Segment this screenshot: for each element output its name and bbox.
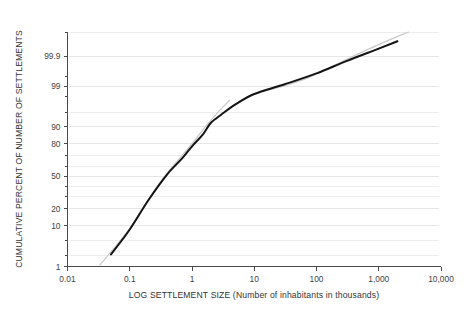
y-tick-label: 10 [51, 221, 61, 231]
probability-plot-chart: 99.99990805020101 0.010.11101001,00010,0… [0, 0, 474, 314]
y-axis-title: CUMULATIVE PERCENT OF NUMBER OF SETTLEME… [14, 30, 24, 268]
y-tick-label: 90 [51, 122, 61, 132]
y-tick-label: 99 [51, 81, 61, 91]
y-tick-label: 99.9 [44, 51, 61, 61]
x-tick-label: 10,000 [428, 274, 454, 284]
y-tick-label: 50 [51, 171, 61, 181]
y-tick-label: 80 [51, 139, 61, 149]
x-axis-title: LOG SETTLEMENT SIZE (Number of inhabitan… [129, 290, 379, 300]
x-tick-label: 0.1 [124, 274, 136, 284]
y-tick-label: 1 [56, 262, 61, 272]
x-tick-label: 10 [250, 274, 260, 284]
x-tick-label: 100 [310, 274, 324, 284]
x-tick-label: 1 [190, 274, 195, 284]
x-tick-label: 0.01 [59, 274, 76, 284]
y-tick-label: 20 [51, 204, 61, 214]
x-tick-label: 1,000 [368, 274, 389, 284]
chart-canvas: 99.99990805020101 0.010.11101001,00010,0… [0, 0, 474, 314]
